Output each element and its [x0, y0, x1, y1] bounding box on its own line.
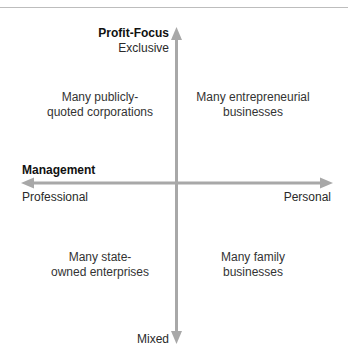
vertical-axis-bottom-label: Mixed	[137, 332, 169, 346]
quadrant-text: Many family	[178, 250, 328, 265]
quadrant-bottom-left: Many state- owned enterprises	[25, 250, 175, 280]
arrow-up-icon	[171, 27, 182, 40]
vertical-axis-top-label: Exclusive	[118, 41, 169, 55]
quadrant-top-left: Many publicly- quoted corporations	[25, 90, 175, 120]
horizontal-axis-title: Management	[22, 163, 95, 177]
quadrant-text: businesses	[178, 105, 328, 120]
arrow-down-icon	[171, 331, 182, 344]
arrow-right-icon	[320, 178, 333, 189]
quadrant-text: businesses	[178, 265, 328, 280]
quadrant-text: owned enterprises	[25, 265, 175, 280]
quadrant-text: Many publicly-	[25, 90, 175, 105]
vertical-axis-arrow	[171, 27, 182, 344]
vertical-axis-title: Profit-Focus	[98, 26, 169, 40]
quadrant-top-right: Many entrepreneurial businesses	[178, 90, 328, 120]
quadrant-bottom-right: Many family businesses	[178, 250, 328, 280]
horizontal-axis-right-label: Personal	[284, 190, 331, 204]
quadrant-text: quoted corporations	[25, 105, 175, 120]
axes-graphic	[0, 0, 348, 356]
quadrant-text: Many state-	[25, 250, 175, 265]
arrow-left-icon	[21, 178, 34, 189]
quadrant-text: Many entrepreneurial	[178, 90, 328, 105]
horizontal-axis-left-label: Professional	[22, 190, 88, 204]
